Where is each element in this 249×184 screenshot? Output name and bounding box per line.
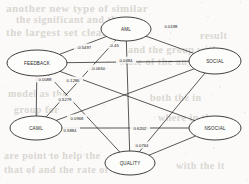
node-label: NSOCIAL bbox=[204, 126, 226, 131]
node-label: SOCIAL bbox=[206, 59, 224, 64]
node-social[interactable]: SOCIAL bbox=[189, 48, 241, 74]
node-layer: AMLSOCIALFEEDBACKCAWLNSOCIALQUALITY bbox=[7, 17, 241, 175]
edge-weight-label: -0.0650 bbox=[91, 66, 106, 71]
node-aml[interactable]: AML bbox=[101, 17, 151, 41]
node-label: FEEDBACK bbox=[24, 61, 51, 66]
path-diagram-svg: 0.0198-0.5497-0.450.0484-0.06500.00880.1… bbox=[0, 0, 249, 184]
node-cawl[interactable]: CAWL bbox=[10, 116, 62, 140]
node-quality[interactable]: QUALITY bbox=[105, 151, 155, 175]
node-feedback[interactable]: FEEDBACK bbox=[7, 50, 67, 76]
node-label: CAWL bbox=[29, 126, 43, 131]
edge-feedback-quality bbox=[48, 75, 120, 152]
edge-aml-social bbox=[146, 36, 194, 53]
diagram-canvas: another new type of similarthe significa… bbox=[0, 0, 249, 184]
edge-weight-label: -0.5497 bbox=[77, 45, 92, 50]
node-label: QUALITY bbox=[120, 161, 141, 166]
node-label: AML bbox=[121, 27, 131, 32]
edge-weight-label: 0.0088 bbox=[39, 77, 52, 82]
edge-weight-label: 0.5279 bbox=[59, 97, 72, 102]
edge-weight-label: 0.0484 bbox=[120, 58, 133, 63]
edge-weight-label: 0.6202 bbox=[134, 126, 147, 131]
edge-weight-label: 0.0968 bbox=[71, 116, 84, 121]
edge-weight-label: 0.1286 bbox=[67, 78, 80, 83]
edge-weight-label: 0.5884 bbox=[64, 128, 77, 133]
edge-weight-label: 0.0198 bbox=[165, 24, 178, 29]
edge-weight-label: -0.45 bbox=[109, 43, 119, 48]
node-nsocial[interactable]: NSOCIAL bbox=[189, 116, 241, 140]
edge-nsocial-quality bbox=[149, 136, 196, 155]
edge-social-quality bbox=[139, 73, 205, 152]
edge-weight-label: 0.0764 bbox=[136, 143, 149, 148]
